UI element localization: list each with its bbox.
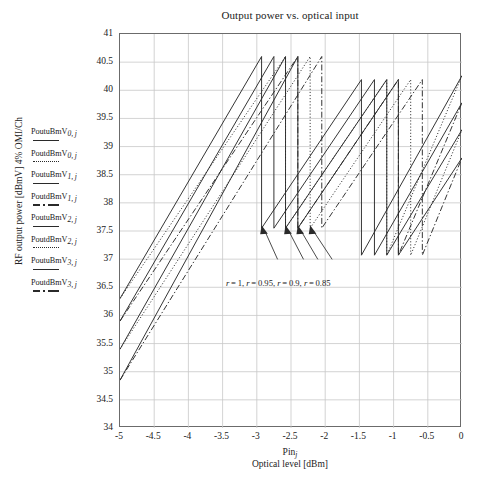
x-axis-variable-label: Pinj — [119, 447, 461, 459]
legend-item-label: PoutuBmV2, j — [31, 213, 103, 224]
legend-line-sample-solid — [33, 269, 59, 272]
legend-item-label: PoutdBmV3, j — [31, 278, 103, 289]
legend-item[interactable]: PoutdBmV1, j — [31, 192, 103, 214]
legend-line-sample-dashdot — [33, 204, 59, 206]
legend-item-label: PoutuBmV1, j — [31, 170, 103, 181]
y-tick-label: 40 — [79, 84, 113, 94]
x-tick-label: 0 — [441, 431, 479, 441]
legend-item[interactable]: PoutdBmV3, j — [31, 278, 103, 300]
legend-item[interactable]: PoutuBmV2, j — [31, 213, 103, 235]
y-tick-label: 40.5 — [79, 56, 113, 66]
legend-item[interactable]: PoutuBmV1, j — [31, 170, 103, 192]
plot-area — [119, 33, 461, 427]
legend-item[interactable]: PoutdBmV0, j — [31, 149, 103, 171]
legend-item[interactable]: PoutuBmV3, j — [31, 256, 103, 278]
x-axis-label: Optical level [dBm] — [119, 459, 461, 469]
legend-item-label: PoutdBmV0, j — [31, 149, 103, 160]
legend-item-label: PoutuBmV3, j — [31, 256, 103, 267]
chart-legend: PoutuBmV0, jPoutdBmV0, jPoutuBmV1, jPout… — [31, 127, 103, 299]
chart-title: Output power vs. optical input — [119, 9, 461, 21]
legend-line-sample-solid — [33, 226, 59, 229]
legend-line-sample-dashdot — [33, 290, 59, 292]
series-annotation: r = 1, r = 0.95, r = 0.9, r = 0.85 — [226, 278, 331, 288]
x-axis-variable-name: Pin — [283, 447, 296, 457]
legend-item[interactable]: PoutuBmV0, j — [31, 127, 103, 149]
y-tick-label: 34.5 — [79, 394, 113, 404]
legend-line-sample-dotted — [33, 247, 59, 250]
y-tick-label: 35 — [79, 366, 113, 376]
plot-canvas — [120, 34, 462, 428]
y-tick-label: 41 — [79, 28, 113, 38]
y-tick-label: 35.5 — [79, 338, 113, 348]
legend-item-label: PoutdBmV2, j — [31, 235, 103, 246]
x-axis-variable-subscript: j — [295, 450, 297, 459]
legend-line-sample-solid — [33, 183, 59, 186]
legend-item-label: PoutuBmV0, j — [31, 127, 103, 138]
legend-line-sample-dotted — [33, 161, 59, 164]
y-tick-label: 39.5 — [79, 112, 113, 122]
annotation-arrows — [260, 225, 332, 259]
y-axis-label: RF output power [dBmV] 4% OMI/Ch — [14, 86, 24, 296]
legend-item-label: PoutdBmV1, j — [31, 192, 103, 203]
chart-page: Output power vs. optical input 3434.5353… — [0, 0, 479, 480]
y-tick-label: 36 — [79, 309, 113, 319]
legend-item[interactable]: PoutdBmV2, j — [31, 235, 103, 257]
legend-line-sample-solid — [33, 140, 59, 143]
